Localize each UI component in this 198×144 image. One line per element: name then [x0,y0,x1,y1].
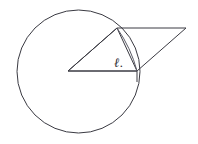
angle-label: ℓ. [114,56,124,69]
geometry-figure-canvas: ℓ. [0,0,198,144]
geometry-figure-svg [0,0,198,144]
inscribed-triangle [68,28,137,71]
